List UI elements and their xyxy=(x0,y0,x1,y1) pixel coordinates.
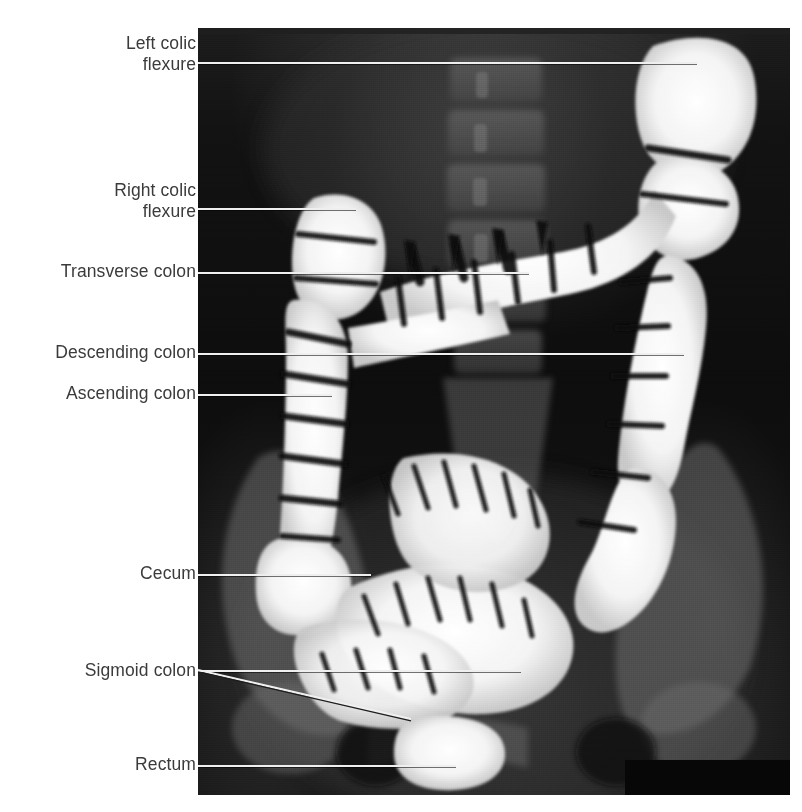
film-grain-overlay xyxy=(198,28,790,795)
label-left-colic-flexure: Left colic flexure xyxy=(126,33,196,75)
label-sigmoid-colon: Sigmoid colon xyxy=(85,660,196,681)
label-descending-colon: Descending colon xyxy=(55,342,196,363)
leader-line-ascending-colon xyxy=(198,394,332,396)
leader-line-sigmoid-colon xyxy=(198,670,521,672)
leader-line-rectum xyxy=(198,765,456,767)
radiograph-figure: Left colic flexure Right colic flexure T… xyxy=(0,0,802,812)
leader-line-transverse-colon xyxy=(198,272,529,274)
label-transverse-colon: Transverse colon xyxy=(61,261,196,282)
film-top-band xyxy=(198,28,790,34)
label-cecum: Cecum xyxy=(140,563,196,584)
label-ascending-colon: Ascending colon xyxy=(66,383,196,404)
leader-line-cecum xyxy=(198,574,371,576)
collimation-block xyxy=(625,760,790,795)
leader-line-left-colic-flexure xyxy=(198,62,697,64)
label-rectum: Rectum xyxy=(135,754,196,775)
label-right-colic-flexure: Right colic flexure xyxy=(114,180,196,222)
leader-line-right-colic-flexure xyxy=(198,208,356,210)
leader-line-descending-colon xyxy=(198,353,684,355)
barium-enema-radiograph-image xyxy=(198,28,790,795)
